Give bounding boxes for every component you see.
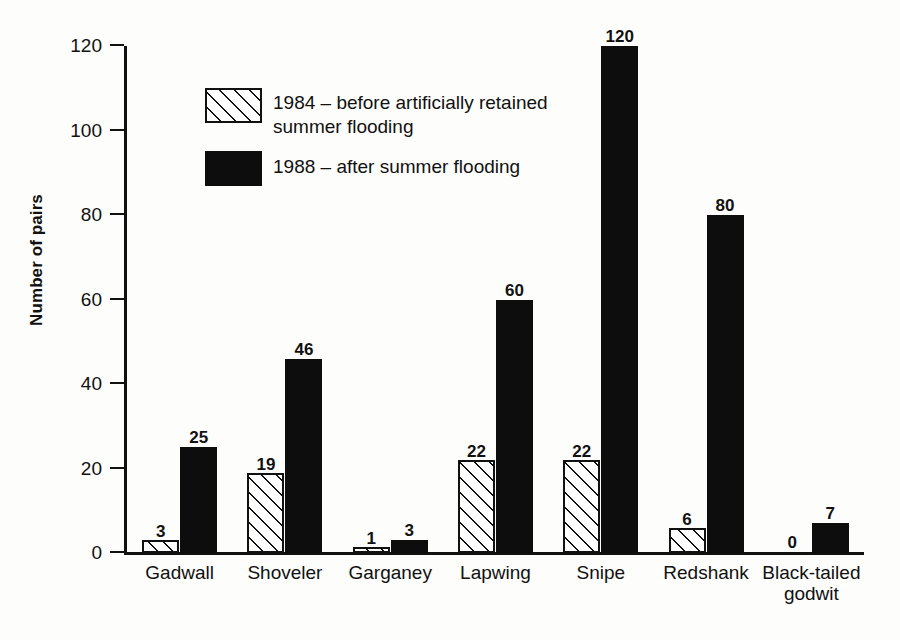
bar-value-label: 120 — [606, 28, 634, 45]
legend-label-1988: 1988 – after summer flooding — [273, 151, 520, 179]
y-tick-label-120: 120 — [42, 36, 102, 55]
y-tick-80 — [110, 213, 124, 215]
legend-swatch-hatched-icon — [205, 88, 262, 123]
bar-chart: Number of pairs 020406080100120 32519461… — [0, 0, 900, 640]
y-tick-label-100: 100 — [42, 120, 102, 139]
bar-value-label: 80 — [716, 197, 735, 214]
y-tick-60 — [110, 298, 124, 300]
y-tick-20 — [110, 467, 124, 469]
y-tick-label-60: 60 — [42, 289, 102, 308]
legend-swatch-filled-icon — [205, 151, 262, 186]
legend-label-1984: 1984 – before artificially retained summ… — [273, 88, 548, 139]
bar[interactable]: 3 — [142, 540, 179, 553]
y-tick-label-40: 40 — [42, 374, 102, 393]
bar-value-label: 3 — [156, 523, 165, 540]
y-tick-0 — [110, 551, 124, 553]
bar[interactable]: 7 — [812, 523, 849, 553]
legend: 1984 – before artificially retained summ… — [205, 88, 675, 198]
y-tick-100 — [110, 129, 124, 131]
y-tick-40 — [110, 382, 124, 384]
legend-item-1988: 1988 – after summer flooding — [205, 151, 675, 186]
bar[interactable]: 60 — [496, 300, 533, 554]
bar-value-label: 1 — [366, 530, 375, 547]
bar-value-label: 22 — [467, 443, 486, 460]
bar[interactable]: 46 — [285, 359, 322, 553]
bar-value-label: 22 — [572, 443, 591, 460]
bar[interactable]: 19 — [247, 473, 284, 553]
bar-group: 07 — [759, 46, 864, 553]
y-tick-120 — [110, 44, 124, 46]
bar[interactable]: 3 — [391, 540, 428, 553]
bar[interactable]: 22 — [458, 460, 495, 553]
bar-value-label: 0 — [788, 534, 797, 551]
bar-value-label: 25 — [189, 429, 208, 446]
bar-value-label: 3 — [404, 522, 413, 539]
y-tick-label-0: 0 — [42, 543, 102, 562]
bar[interactable]: 6 — [669, 528, 706, 553]
bar[interactable]: 22 — [563, 460, 600, 553]
bar[interactable]: 1 — [353, 547, 390, 553]
bar-value-label: 60 — [505, 282, 524, 299]
bar-value-label: 19 — [256, 456, 275, 473]
y-axis-title: Number of pairs — [27, 160, 47, 360]
category-label: Black-tailed godwit — [745, 562, 878, 605]
legend-item-1984: 1984 – before artificially retained summ… — [205, 88, 675, 139]
y-tick-label-20: 20 — [42, 458, 102, 477]
y-tick-label-80: 80 — [42, 205, 102, 224]
bar-value-label: 7 — [826, 505, 835, 522]
bar[interactable]: 80 — [707, 215, 744, 553]
bar[interactable]: 25 — [180, 447, 217, 553]
bar-value-label: 6 — [682, 511, 691, 528]
bar-value-label: 46 — [294, 341, 313, 358]
